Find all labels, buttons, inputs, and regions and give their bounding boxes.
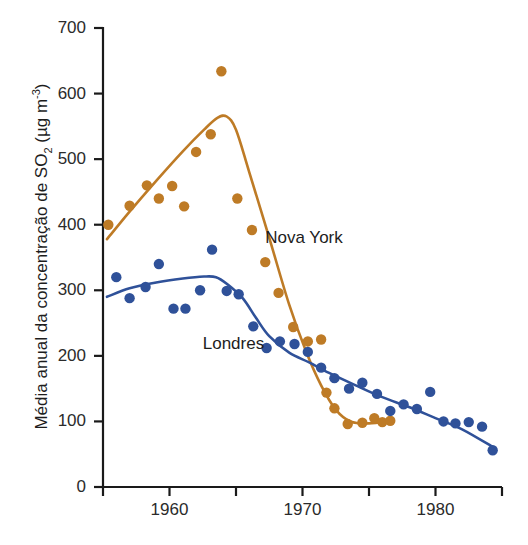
data-point [398,399,408,409]
data-point [248,321,258,331]
series-nova-york [103,66,395,429]
y-axis-tick-label: 500 [24,149,86,169]
y-axis-tick-label: 300 [24,280,86,300]
y-axis-tick-label: 100 [24,411,86,431]
data-point [385,406,395,416]
data-point [124,293,134,303]
trend-line [107,115,390,423]
y-axis-title: Média anual da concentração de SO2 (µg m… [30,47,53,467]
data-point [412,404,422,414]
y-axis-tick-label: 200 [24,346,86,366]
data-point [179,201,189,211]
x-axis-tick-label: 1980 [396,500,476,520]
data-point [425,387,435,397]
data-point [438,416,448,426]
data-point [316,362,326,372]
data-point [167,181,177,191]
data-point [233,289,243,299]
y-axis-tick-label: 600 [24,84,86,104]
data-point [260,257,270,267]
so2-concentration-chart: Média anual da concentração de SO2 (µg m… [0,0,528,545]
chart-canvas [0,0,528,545]
data-point [142,180,152,190]
data-point [124,201,134,211]
data-point [464,417,474,427]
data-point [477,421,487,431]
data-point [289,339,299,349]
data-point [321,387,331,397]
data-point [140,282,150,292]
chart-series [103,66,498,455]
data-point [247,225,257,235]
data-point [288,322,298,332]
data-point [487,445,497,455]
data-point [372,389,382,399]
data-point [385,416,395,426]
y-axis-tick-label: 700 [24,18,86,38]
data-point [216,66,226,76]
data-point [357,378,367,388]
data-point [357,418,367,428]
data-point [207,244,217,254]
data-point [168,303,178,313]
data-point [303,347,313,357]
data-point [303,336,313,346]
data-point [316,334,326,344]
data-point [111,272,121,282]
data-point [329,373,339,383]
data-point [154,193,164,203]
y-axis-tick-label: 400 [24,215,86,235]
series-annotation-londres: Londres [203,334,264,354]
y-axis-tick-label: 0 [24,477,86,497]
data-point [221,286,231,296]
data-point [206,129,216,139]
data-point [154,259,164,269]
series-annotation-nova-york: Nova York [265,228,343,248]
data-point [450,418,460,428]
trend-line [107,276,494,447]
data-point [344,383,354,393]
data-point [329,403,339,413]
data-point [232,193,242,203]
data-point [103,220,113,230]
data-point [343,419,353,429]
series-londres [107,244,498,455]
data-point [273,288,283,298]
x-axis-tick-label: 1960 [130,500,210,520]
data-point [275,336,285,346]
data-point [195,285,205,295]
x-axis-tick-label: 1970 [263,500,343,520]
data-point [180,303,190,313]
data-point [191,147,201,157]
